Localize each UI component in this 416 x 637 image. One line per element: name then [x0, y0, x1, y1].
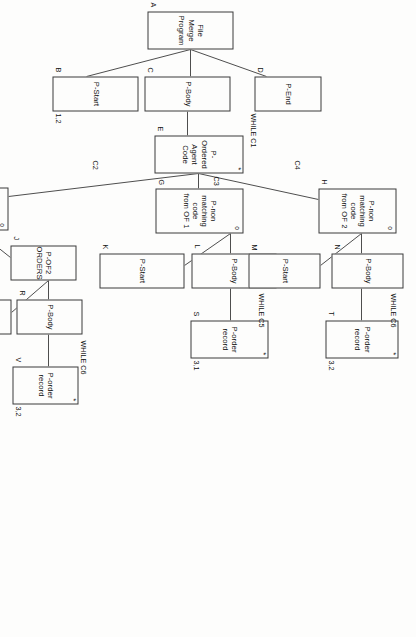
node-tag-j: J — [11, 236, 19, 240]
node-label: P-order record — [220, 324, 238, 354]
node-label: P-non matching code from OF 2 — [339, 189, 376, 232]
iteration-marker-icon: * — [258, 352, 266, 355]
node-tag-m: M — [249, 244, 257, 250]
iteration-marker-icon: * — [233, 167, 241, 170]
node-c[interactable]: P-Body — [144, 76, 230, 111]
node-tag-r: R — [17, 290, 25, 295]
selection-marker-icon: o — [233, 226, 241, 230]
node-label: P-Start — [279, 256, 288, 284]
node-label: P-Body — [362, 256, 371, 286]
selection-marker-icon: o — [0, 223, 6, 227]
node-note-t: 3,2 — [326, 360, 334, 370]
condition-label-c5a: WHILE C5 — [256, 293, 264, 327]
node-tag-l: L — [192, 244, 200, 248]
node-label: P-Start — [137, 256, 146, 284]
node-g[interactable]: P-non matching code from OF 1o — [155, 188, 243, 233]
structure-chart: File Merge ProgramAP-StartB1,2P-BodyCP-E… — [0, 0, 416, 637]
node-tag-v: V — [13, 357, 21, 362]
condition-label-c2: C2 — [90, 160, 98, 169]
node-label: P-order record — [352, 324, 370, 354]
node-d[interactable]: P-End — [254, 76, 321, 111]
node-label: P-Start — [90, 79, 99, 107]
condition-label-c3: C3 — [211, 176, 219, 185]
node-label: P-Body — [182, 79, 191, 109]
node-f[interactable]: P-matching agent codeo — [0, 187, 8, 230]
diagram-canvas: File Merge ProgramAP-StartB1,2P-BodyCP-E… — [0, 0, 416, 637]
node-label: P-non matching code from OF 1 — [181, 189, 218, 232]
node-v[interactable]: P-order record* — [12, 366, 78, 404]
condition-label-c1: WHILE C1 — [248, 113, 256, 147]
node-tag-b: B — [53, 67, 61, 72]
node-label: P-Body — [44, 302, 53, 332]
node-tag-k: K — [100, 244, 108, 249]
node-tag-g: G — [156, 179, 164, 185]
node-note-b: 1,2 — [53, 113, 61, 123]
node-label: P-Ordered Agent Code — [180, 136, 217, 172]
node-tag-a: A — [148, 2, 156, 7]
node-label: P-order record — [36, 370, 54, 400]
node-o2[interactable]: P-Start — [0, 299, 11, 334]
iteration-marker-icon: * — [388, 352, 396, 355]
node-label: File Merge Program — [176, 13, 204, 47]
node-t[interactable]: P-order record* — [325, 320, 398, 358]
node-n[interactable]: P-Body — [331, 253, 403, 288]
condition-label-c4: C4 — [292, 160, 300, 169]
node-note-s: 3,1 — [191, 360, 199, 370]
node-m[interactable]: P-Start — [248, 253, 320, 288]
condition-label-c6b: WHILE C6 — [78, 340, 86, 374]
selection-marker-icon: o — [386, 226, 394, 230]
node-note-v: 3,2 — [13, 406, 21, 416]
node-tag-c: C — [145, 67, 153, 72]
node-k[interactable]: P-Start — [99, 253, 184, 288]
node-tag-t: T — [326, 311, 334, 315]
node-tag-s: S — [191, 311, 199, 316]
node-label: P-Body — [229, 256, 238, 286]
condition-label-c6a: WHILE C6 — [388, 293, 396, 327]
node-j[interactable]: P-OF2 ORDERS — [10, 245, 76, 280]
node-label: P-End — [283, 81, 292, 107]
node-tag-h: H — [319, 179, 327, 184]
node-tag-e: E — [155, 126, 163, 131]
node-e[interactable]: P-Ordered Agent Code* — [154, 135, 243, 173]
node-label: P-OF2 ORDERS — [34, 244, 52, 281]
node-tag-n: N — [332, 244, 340, 249]
iteration-marker-icon: * — [68, 398, 76, 401]
node-tag-d: D — [255, 67, 263, 72]
node-h[interactable]: P-non matching code from OF 2o — [318, 188, 396, 233]
node-a[interactable]: File Merge Program — [147, 11, 233, 49]
node-r[interactable]: P-Body — [16, 299, 82, 334]
node-b[interactable]: P-Start — [52, 76, 138, 111]
